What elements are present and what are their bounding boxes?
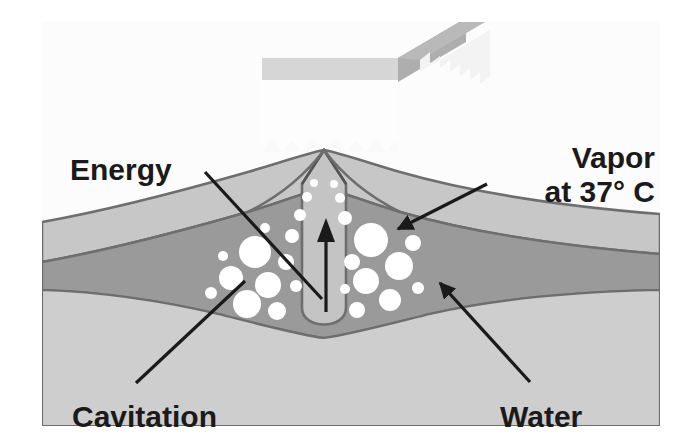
water-label: Water bbox=[500, 400, 583, 433]
cavitation-bubble bbox=[233, 290, 261, 318]
cavitation-bubble bbox=[290, 280, 302, 292]
cavitation-bubble bbox=[412, 282, 424, 294]
cavitation-bubble bbox=[335, 193, 345, 203]
cavitation-bubble bbox=[218, 251, 228, 261]
energy-label: Energy bbox=[70, 153, 172, 186]
cavitation-bubble bbox=[205, 287, 217, 299]
diagram-canvas: EnergyVaporat 37° CCavitationWater bbox=[0, 0, 683, 448]
cavitation-diagram-figure: EnergyVaporat 37° CCavitationWater Energ… bbox=[0, 0, 683, 448]
cavitation-bubble bbox=[239, 236, 271, 268]
cavitation-bubble bbox=[330, 180, 338, 188]
cavitation-bubble bbox=[302, 192, 312, 202]
cavitation-bubble bbox=[354, 223, 388, 257]
cavitation-bubble bbox=[285, 229, 299, 243]
cavitation-bubble bbox=[255, 272, 281, 298]
cavitation-bubble bbox=[344, 254, 360, 270]
cavitation-bubble bbox=[338, 211, 352, 225]
cavitation-bubble bbox=[268, 302, 286, 320]
cavitation-bubble bbox=[294, 209, 306, 221]
cavitation-bubble bbox=[385, 252, 413, 280]
cavitation-bubble bbox=[353, 268, 379, 294]
tip-front-band bbox=[262, 58, 398, 80]
cavitation-bubble bbox=[379, 289, 401, 311]
cavitation-bubble bbox=[340, 284, 350, 294]
cavitation-bubble bbox=[349, 302, 365, 318]
cavitation-bubble bbox=[310, 179, 318, 187]
scene-group bbox=[42, 18, 660, 426]
cavitation-label: Cavitation bbox=[72, 400, 217, 433]
cavitation-bubble bbox=[405, 235, 421, 251]
